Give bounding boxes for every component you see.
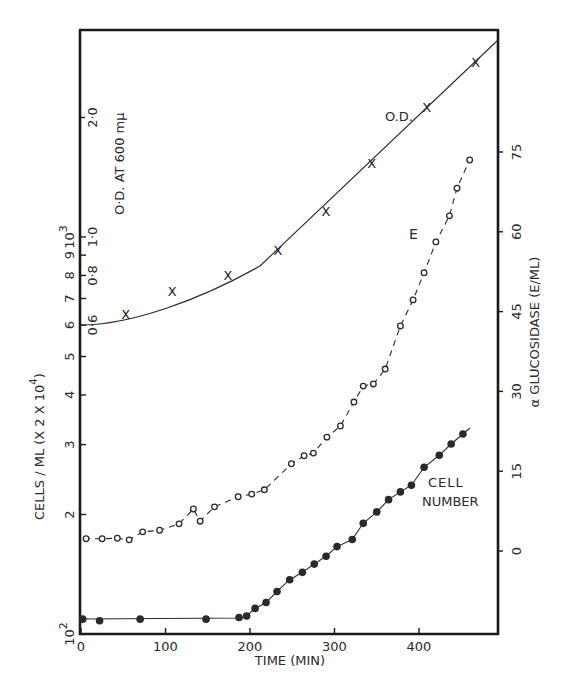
left-tick-label: 9 [62, 251, 77, 259]
svg-text:102: 102 [57, 622, 77, 646]
e-open-circle-marker [212, 504, 218, 510]
cell-filled-circle-marker [359, 520, 367, 528]
cell-filled-circle-marker [273, 588, 281, 596]
cell-filled-circle-marker [459, 430, 467, 438]
left-tick-label: 7 [62, 294, 77, 302]
e-open-circle-marker [99, 536, 105, 542]
curve-o-d- [81, 40, 498, 325]
cell-filled-circle-marker [286, 576, 294, 584]
right-tick-label: 15 [509, 463, 524, 480]
x-tick-label: 400 [407, 639, 432, 654]
right-tick-label: 60 [509, 224, 524, 241]
svg-text:1·0: 1·0 [85, 227, 100, 248]
e-open-circle-marker [249, 491, 255, 497]
e-series-label: E [409, 226, 418, 242]
svg-text:103: 103 [57, 225, 77, 249]
od-x-marker: X [367, 156, 376, 171]
right-tick-label: 45 [509, 303, 524, 320]
cell-filled-circle-marker [202, 615, 210, 623]
svg-text:45: 45 [509, 303, 524, 320]
cell-filled-circle-marker [385, 496, 393, 504]
od-x-marker: X [422, 100, 431, 115]
e-open-circle-marker [324, 434, 330, 440]
e-open-circle-marker [433, 239, 439, 245]
cell-filled-circle-marker [322, 552, 330, 560]
cell-filled-circle-marker [96, 617, 104, 625]
e-open-circle-marker [454, 185, 460, 191]
svg-text:2·0: 2·0 [85, 107, 100, 128]
svg-text:15: 15 [509, 463, 524, 480]
od-x-marker: X [224, 268, 233, 283]
right-tick-label: 75 [509, 144, 524, 161]
cell-filled-circle-marker [79, 615, 87, 623]
od-tick-label: 2·0 [85, 107, 100, 128]
svg-text:60: 60 [509, 224, 524, 241]
e-open-circle-marker [176, 521, 182, 527]
cell-filled-circle-marker [136, 615, 144, 623]
e-open-circle-marker [83, 536, 89, 542]
e-open-circle-marker [447, 213, 453, 219]
right-tick-label: 30 [509, 383, 524, 400]
left-tick-label: 8 [62, 271, 77, 279]
cell-filled-circle-marker [348, 536, 356, 544]
left-tick-label: 103 [57, 225, 77, 249]
svg-text:0: 0 [509, 547, 524, 555]
series-markers: XXXXXXXX [79, 55, 480, 625]
od-tick-label: 1·0 [85, 227, 100, 248]
right-tick-label: 0 [509, 547, 524, 555]
e-open-circle-marker [311, 450, 317, 456]
svg-text:5: 5 [62, 352, 77, 360]
axis-ticks [80, 117, 503, 634]
x-axis-label: TIME (MIN) [254, 653, 325, 668]
e-open-circle-marker [467, 157, 473, 163]
cell-filled-circle-marker [251, 605, 259, 613]
svg-text:2: 2 [62, 510, 77, 518]
svg-text:CELLS / ML (X 2 X 104): CELLS / ML (X 2 X 104) [28, 373, 47, 520]
left-tick-label: 102 [57, 622, 77, 646]
cell-filled-circle-marker [397, 488, 405, 496]
od-series-label: O.D. [385, 109, 413, 124]
cell-filled-circle-marker [373, 508, 381, 516]
x-tick-label: 200 [238, 639, 263, 654]
svg-text:9: 9 [62, 251, 77, 259]
cell-filled-circle-marker [420, 463, 428, 471]
e-open-circle-marker [126, 537, 132, 543]
e-open-circle-marker [157, 527, 163, 533]
e-open-circle-marker [140, 529, 146, 535]
e-open-circle-marker [360, 383, 366, 389]
svg-text:0·8: 0·8 [85, 265, 100, 286]
od-x-marker: X [273, 243, 282, 258]
od-x-marker: X [471, 55, 480, 70]
left-axis-label-close: ) [32, 373, 47, 378]
cell-filled-circle-marker [299, 569, 307, 577]
e-open-circle-marker [262, 487, 268, 493]
cell-filled-circle-marker [262, 599, 270, 607]
od-x-marker: X [121, 307, 130, 322]
e-open-circle-marker [421, 270, 427, 276]
od-x-marker: X [168, 284, 177, 299]
svg-text:6: 6 [62, 321, 77, 329]
cell-filled-circle-marker [333, 543, 341, 551]
e-open-circle-marker [371, 381, 377, 387]
left-axis-label-text: CELLS / ML (X 2 X 10 [32, 385, 47, 520]
e-open-circle-marker [115, 535, 121, 541]
od-tick-label: 0·8 [85, 265, 100, 286]
od-x-marker: X [322, 204, 331, 219]
e-open-circle-marker [289, 461, 295, 467]
cell-filled-circle-marker [408, 481, 416, 489]
cell-filled-circle-marker [310, 560, 318, 568]
plot-frame [79, 30, 499, 635]
x-tick-label: 300 [322, 639, 347, 654]
cell-number-label-line1: CELL [428, 475, 464, 490]
right-axis-label: α GLUCOSIDASE (E/ML) [527, 257, 542, 408]
e-open-circle-marker [197, 518, 203, 524]
left-tick-label: 6 [62, 321, 77, 329]
svg-text:7: 7 [62, 294, 77, 302]
left-tick-label: 3 [62, 440, 77, 448]
e-open-circle-marker [351, 399, 357, 405]
right-axis-label-text: α GLUCOSIDASE (E/ML) [527, 257, 542, 408]
svg-text:8: 8 [62, 271, 77, 279]
e-open-circle-marker [398, 323, 404, 329]
e-open-circle-marker [382, 366, 388, 372]
svg-text:30: 30 [509, 383, 524, 400]
